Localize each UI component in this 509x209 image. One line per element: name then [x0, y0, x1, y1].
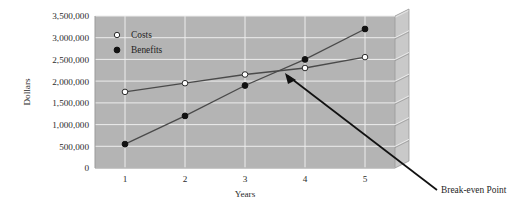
- y-tick-label: 3,500,000: [52, 11, 89, 21]
- y-axis-title: Dollars: [22, 78, 32, 105]
- plot-3d-top-cap: [95, 9, 409, 16]
- y-tick-label: 500,000: [59, 142, 89, 152]
- chart-canvas: 3,500,000 3,000,000 2,500,000 2,000,000 …: [0, 0, 509, 209]
- x-tick-label: 2: [183, 174, 188, 184]
- y-axis-tick-labels: 3,500,000 3,000,000 2,500,000 2,000,000 …: [52, 11, 89, 173]
- x-tick-label: 3: [243, 174, 248, 184]
- legend-label-benefits: Benefits: [131, 45, 163, 55]
- plot-3d-right-wall: [395, 9, 409, 168]
- y-tick-label: 2,500,000: [52, 55, 89, 65]
- x-tick-label: 4: [303, 174, 308, 184]
- cost-benefit-line-chart: 3,500,000 3,000,000 2,500,000 2,000,000 …: [0, 0, 509, 209]
- x-axis-tick-labels: 1 2 3 4 5: [123, 174, 368, 184]
- y-tick-label: 1,000,000: [52, 120, 89, 130]
- break-even-label: Break-even Point: [441, 185, 507, 195]
- y-tick-label: 3,000,000: [52, 33, 89, 43]
- y-tick-label: 1,500,000: [52, 98, 89, 108]
- legend-costs-marker-icon: [114, 32, 119, 37]
- legend-label-costs: Costs: [131, 30, 152, 40]
- y-tick-label: 0: [84, 163, 89, 173]
- legend-benefits-marker-icon: [114, 47, 120, 53]
- x-tick-label: 1: [123, 174, 128, 184]
- x-tick-label: 5: [363, 174, 368, 184]
- y-tick-label: 2,000,000: [52, 77, 89, 87]
- x-axis-title: Years: [235, 189, 256, 199]
